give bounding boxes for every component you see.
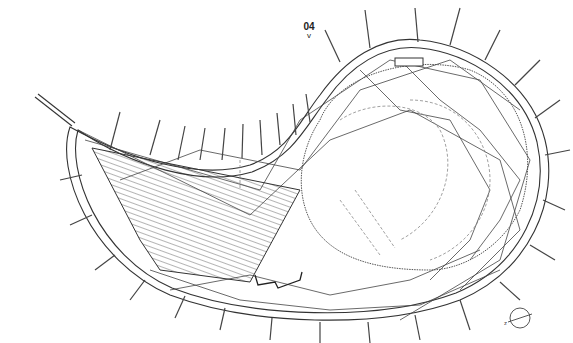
stepped-edge — [255, 272, 302, 288]
north-arrow-icon: z — [504, 308, 532, 328]
svg-text:z: z — [504, 320, 507, 326]
inner-oval — [240, 58, 528, 270]
architectural-plan: z — [0, 0, 573, 343]
